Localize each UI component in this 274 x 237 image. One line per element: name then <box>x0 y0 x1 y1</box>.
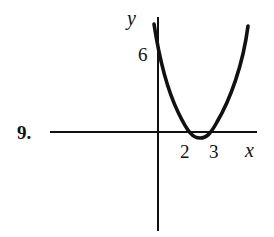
y-tick-label-6: 6 <box>138 44 148 65</box>
y-axis-label: y <box>125 7 136 30</box>
x-axis-label: x <box>244 139 254 161</box>
problem-number: 9. <box>17 122 31 143</box>
x-tick-label-2: 2 <box>180 141 190 162</box>
parabola-graph: 9. y 6 2 3 x <box>0 0 274 237</box>
parabola-curve <box>154 24 248 138</box>
x-tick-label-3: 3 <box>209 141 219 162</box>
